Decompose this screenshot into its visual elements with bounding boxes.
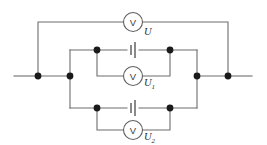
junction-node-lower-branch-left bbox=[94, 105, 101, 112]
voltmeters-group: VUVU1VU2 bbox=[124, 13, 156, 145]
voltmeter-label-total: U bbox=[144, 26, 153, 37]
voltmeter-glyph: V bbox=[130, 125, 137, 136]
wire-upper-meter-loop bbox=[97, 50, 124, 76]
label-subscript: 1 bbox=[152, 83, 156, 91]
voltmeter-total: VU bbox=[124, 13, 154, 38]
wire-upper-meter-loop-r bbox=[143, 50, 171, 76]
voltmeter-glyph: V bbox=[130, 71, 137, 82]
voltmeter-cell2: VU2 bbox=[124, 121, 156, 145]
voltmeter-glyph: V bbox=[130, 17, 137, 28]
junction-node-right-inner-rail bbox=[194, 73, 201, 80]
wire-outer-loop-right bbox=[143, 22, 229, 76]
junction-node-lower-branch-right bbox=[167, 105, 174, 112]
wire-lower-meter-loop bbox=[97, 108, 124, 130]
wire-lower-meter-loop-r bbox=[143, 108, 171, 130]
battery-cell-symbol-cell-upper bbox=[131, 42, 135, 58]
voltmeter-cell1: VU1 bbox=[124, 67, 156, 91]
wire-outer-loop-left bbox=[38, 22, 124, 76]
junction-node-left-inner-rail bbox=[67, 73, 74, 80]
voltmeter-label-cell2: U2 bbox=[144, 131, 156, 144]
label-subscript: 2 bbox=[152, 137, 156, 145]
voltmeter-label-cell1: U1 bbox=[144, 77, 155, 90]
circuit-diagram-canvas: VUVU1VU2 bbox=[0, 0, 267, 145]
battery-cell-symbol-cell-lower bbox=[131, 100, 135, 116]
junction-node-upper-branch-left bbox=[94, 47, 101, 54]
junction-node-upper-branch-right bbox=[167, 47, 174, 54]
circuit-schematic: VUVU1VU2 bbox=[0, 0, 267, 145]
junction-node-left-outer-rail bbox=[35, 73, 42, 80]
junction-node-right-outer-rail bbox=[225, 73, 232, 80]
label-main: U bbox=[144, 26, 153, 37]
